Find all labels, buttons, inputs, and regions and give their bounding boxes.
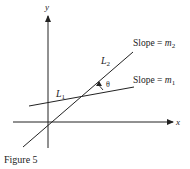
x-axis-label: x xyxy=(175,117,180,127)
angle-label: θ xyxy=(106,80,110,89)
slope-m2-label: Slope = m2 xyxy=(133,38,176,50)
line-l2-label: L2 xyxy=(100,55,111,68)
line-l2 xyxy=(23,52,133,147)
line-l1-label: L1 xyxy=(55,88,66,101)
slope-m1-label: Slope = m1 xyxy=(133,75,176,87)
diagram-canvas: y x θ L1 L2 Slope = m2 Slope = m1 Figure… xyxy=(0,0,190,169)
angle-arc xyxy=(99,82,103,90)
y-axis-label: y xyxy=(44,2,49,12)
figure-caption: Figure 5 xyxy=(4,154,38,165)
